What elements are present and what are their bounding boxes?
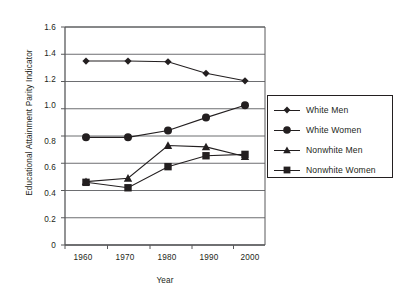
legend-item-nonwhite-men[interactable]: Nonwhite Men	[274, 143, 363, 157]
data-point	[164, 127, 172, 135]
series-line	[86, 154, 245, 187]
data-point	[202, 70, 209, 77]
legend-item-white-women[interactable]: White Women	[274, 123, 361, 137]
legend-label-white-women: White Women	[300, 125, 361, 135]
data-point	[202, 114, 210, 122]
data-point	[82, 179, 89, 186]
series-line	[86, 61, 245, 81]
legend-item-nonwhite-women[interactable]: Nonwhite Women	[274, 163, 376, 177]
data-point	[241, 151, 248, 158]
legend-label-nonwhite-women: Nonwhite Women	[300, 165, 376, 175]
diamond-marker-icon	[274, 104, 300, 116]
triangle-marker-icon	[274, 144, 300, 156]
data-point	[82, 133, 90, 141]
data-point	[82, 57, 89, 64]
x-axis-title: Year	[65, 276, 265, 285]
series-nonwhite-women	[82, 151, 248, 192]
data-point	[241, 77, 248, 84]
square-marker-icon	[274, 164, 300, 176]
chart-legend: White Men White Women Nonwhite Men Nonwh…	[267, 95, 393, 178]
series-white-men	[82, 57, 248, 84]
data-point	[202, 152, 209, 159]
chart-container: Educational Attainment Parity Indicator …	[0, 0, 405, 295]
data-point	[241, 101, 249, 109]
legend-label-white-men: White Men	[300, 105, 348, 115]
series-white-women	[82, 101, 249, 141]
data-point	[164, 163, 171, 170]
legend-label-nonwhite-men: Nonwhite Men	[300, 145, 363, 155]
data-point	[124, 184, 131, 191]
data-point	[164, 58, 171, 65]
data-point	[124, 133, 132, 141]
data-point	[124, 57, 131, 64]
legend-item-white-men[interactable]: White Men	[274, 103, 348, 117]
circle-marker-icon	[274, 124, 300, 136]
